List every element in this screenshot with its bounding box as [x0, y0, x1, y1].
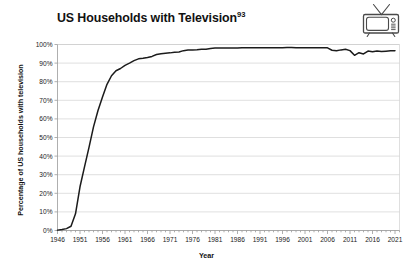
series-line-us-households-with-television: [58, 47, 396, 230]
y-tick-label: 30%: [39, 171, 52, 178]
x-tick-label: 2021: [388, 236, 403, 243]
y-tick-label: 90%: [39, 60, 52, 67]
x-tick-label: 1996: [275, 236, 290, 243]
x-tick-label: 1986: [230, 236, 245, 243]
y-tick-label: 60%: [39, 115, 52, 122]
x-tick-label: 2011: [343, 236, 358, 243]
y-tick-label: 70%: [39, 97, 52, 104]
x-tick-label: 1961: [118, 236, 133, 243]
x-tick-label: 2006: [320, 236, 335, 243]
x-tick-label: 2016: [365, 236, 380, 243]
chart-figure: US Households with Television93 Percenta…: [0, 0, 413, 267]
y-tick-label: 100%: [36, 41, 53, 48]
y-tick-label: 40%: [39, 153, 52, 160]
x-tick-label: 1981: [208, 236, 223, 243]
x-tick-label: 1946: [50, 236, 65, 243]
y-tick-label: 10%: [39, 208, 52, 215]
plot-area: 0%10%20%30%40%50%60%70%80%90%100%1946195…: [0, 0, 413, 267]
x-tick-label: 1956: [95, 236, 110, 243]
x-tick-label: 1976: [185, 236, 200, 243]
y-tick-label: 20%: [39, 190, 52, 197]
x-tick-label: 2001: [298, 236, 313, 243]
y-tick-label: 0%: [43, 227, 53, 234]
x-tick-label: 1966: [140, 236, 155, 243]
x-tick-label: 1971: [163, 236, 178, 243]
x-tick-label: 1991: [253, 236, 268, 243]
y-tick-label: 80%: [39, 78, 52, 85]
y-tick-label: 50%: [39, 134, 52, 141]
x-tick-label: 1951: [73, 236, 88, 243]
